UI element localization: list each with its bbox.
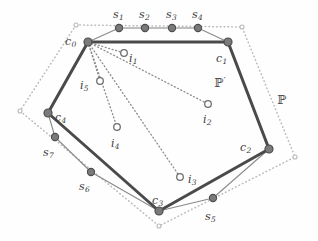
interior-label-i4: i4	[111, 138, 120, 151]
vertex-label-c3: c3	[152, 195, 163, 208]
vertex-label-c2: c2	[240, 142, 251, 155]
inner-polygon-label: ℙ′	[214, 76, 226, 90]
sample-label-s4: s4	[192, 9, 203, 22]
interior-label-i1: i1	[129, 53, 138, 66]
sample-label-s5: s5	[205, 211, 216, 224]
interior-label-i5: i5	[80, 80, 89, 93]
outer-polygon-label: ℙ	[277, 94, 286, 107]
vertex-label-c1: c1	[216, 53, 227, 66]
sample-label-s6: s6	[79, 181, 90, 194]
sample-label-s1: s1	[113, 9, 124, 22]
dotted-link-group	[88, 42, 208, 177]
vertex-label-c4: c4	[55, 112, 66, 125]
vertex-label-c0: c0	[65, 36, 76, 49]
sample-label-s3: s3	[166, 9, 177, 22]
diagram-canvas: c0c1c2c3c4s1s2s3s4s5s6s7i1i2i3i4i5ℙ′ℙ	[0, 0, 318, 241]
sample-label-s7: s7	[43, 147, 54, 160]
interior-label-i3: i3	[188, 174, 197, 187]
interior-point-group	[97, 50, 212, 181]
interior-label-i2: i2	[203, 114, 212, 127]
sample-label-s2: s2	[139, 9, 150, 22]
